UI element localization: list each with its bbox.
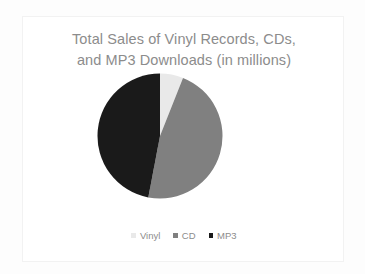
plot-area — [23, 17, 344, 262]
chart-card: Total Sales of Vinyl Records, CDs, and M… — [22, 16, 344, 262]
legend-item-cd[interactable]: CD — [173, 230, 195, 241]
pie-slice-group — [98, 74, 223, 199]
legend-item-mp3[interactable]: MP3 — [209, 230, 237, 241]
legend-swatch-mp3 — [209, 233, 214, 238]
legend-label-cd: CD — [182, 230, 196, 241]
legend-swatch-vinyl — [131, 233, 136, 238]
legend-label-vinyl: Vinyl — [140, 230, 160, 241]
legend-label-mp3: MP3 — [217, 230, 237, 241]
pie-chart — [97, 73, 223, 199]
pie-slice-mp3 — [98, 74, 160, 198]
legend-swatch-cd — [173, 233, 178, 238]
legend-item-vinyl[interactable]: Vinyl — [131, 230, 160, 241]
chart-legend: VinylCDMP3 — [23, 230, 344, 241]
